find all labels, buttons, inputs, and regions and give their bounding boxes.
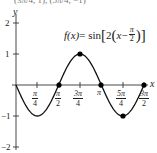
- y-axis-label: y: [13, 7, 17, 16]
- y-tick-label-1: 1: [5, 50, 10, 59]
- y-tick-label-2: 2: [5, 19, 10, 28]
- x-tick-label-5pi-over-4: 5π 4: [116, 90, 126, 108]
- y-tick-label-neg2: −2: [1, 143, 11, 152]
- point-pi-over-2: [56, 82, 61, 87]
- point-3pi-over-4-max: [77, 51, 82, 56]
- point-pi: [98, 82, 103, 87]
- right-bracket: ]: [141, 28, 146, 42]
- x-tick-label-pi-over-4: π 4: [32, 90, 38, 108]
- x-tick-label-3pi-over-4: 3π 4: [73, 90, 83, 108]
- x-axis-label: x: [150, 79, 154, 88]
- point-5pi-over-4-min: [120, 113, 125, 118]
- y-tick-label-neg1: −1: [1, 112, 11, 121]
- x-tick-label-3pi-over-2: 3π 2: [139, 90, 149, 108]
- x-tick-label-pi-over-2: π 2: [55, 90, 61, 108]
- plot-area: [0, 0, 157, 153]
- pi-over-2-fraction: π 2: [129, 26, 135, 43]
- point-3pi-over-2: [141, 82, 146, 87]
- x-tick-label-pi: π: [97, 88, 101, 97]
- function-label: f(x) = sin [ 2 ( x − π 2 ) ]: [64, 26, 146, 43]
